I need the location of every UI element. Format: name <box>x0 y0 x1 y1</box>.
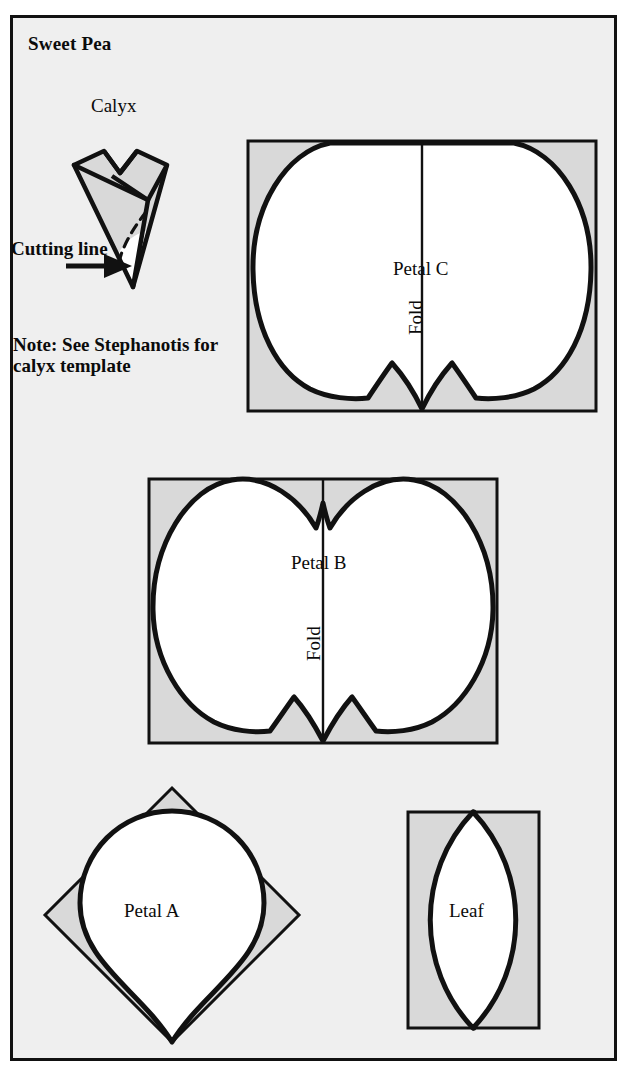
petal-b-fold-label: Fold <box>303 626 325 661</box>
template-artwork <box>0 0 630 1079</box>
page-title: Sweet Pea <box>28 33 112 54</box>
calyx-note: Note: See Stephanotis for calyx template <box>13 334 243 377</box>
petal-c-label: Petal C <box>393 258 448 279</box>
petal-c-fold-label: Fold <box>405 300 427 335</box>
template-sheet-page: Sweet Pea Calyx Cutting line Note: See S… <box>0 0 630 1079</box>
petal-a-shape <box>80 811 264 1042</box>
cutting-line-label: Cutting line <box>11 238 121 259</box>
calyx-label: Calyx <box>91 95 136 116</box>
leaf-label: Leaf <box>449 900 484 921</box>
petal-b-label: Petal B <box>291 552 346 573</box>
calyx-diagram <box>66 151 167 287</box>
petal-b-template <box>149 479 497 743</box>
petal-a-label: Petal A <box>124 900 179 921</box>
